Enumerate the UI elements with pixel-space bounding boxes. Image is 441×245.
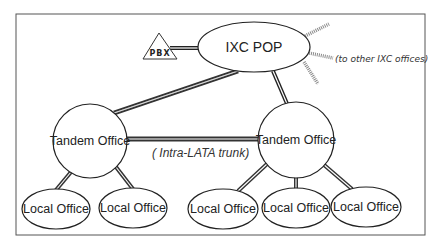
local-office-5: Local Office xyxy=(331,187,401,227)
tandem-office-left-label: Tandem Office xyxy=(50,134,130,148)
local-office-3: Local Office xyxy=(188,189,258,229)
intra-lata-trunk-note: ( Intra-LATA trunk) xyxy=(152,146,249,160)
other-ixc-offices-note: (to other IXC offices) xyxy=(335,54,428,64)
local-office-4: Local Office xyxy=(262,188,330,228)
ixc-pop-node: IXC POP xyxy=(198,22,310,72)
pbx-label: PBX xyxy=(149,49,170,58)
local-office-2: Local Office xyxy=(99,188,167,228)
local-office-3-label: Local Office xyxy=(190,202,256,216)
local-office-5-label: Local Office xyxy=(333,200,399,214)
local-office-1: Local Office xyxy=(22,189,90,229)
network-hierarchy-diagram: PBX IXC POP Tandem Office Tandem Office … xyxy=(0,0,441,245)
local-office-2-label: Local Office xyxy=(100,201,166,215)
local-office-1-label: Local Office xyxy=(23,202,89,216)
ixc-pop-label: IXC POP xyxy=(226,39,283,55)
tandem-office-right-label: Tandem Office xyxy=(256,133,336,147)
local-office-4-label: Local Office xyxy=(263,201,329,215)
